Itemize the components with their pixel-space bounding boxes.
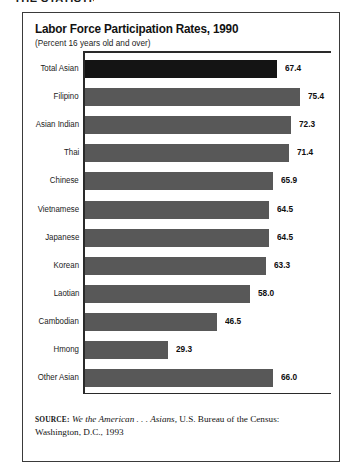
bar-category-label: Vietnamese bbox=[38, 204, 79, 214]
bar bbox=[85, 60, 278, 78]
bar-category-label: Thai bbox=[64, 147, 79, 157]
bar bbox=[85, 369, 274, 387]
bar bbox=[85, 341, 169, 359]
chart-subtitle: (Percent 16 years old and over) bbox=[35, 38, 151, 48]
bar bbox=[85, 116, 292, 134]
figure-page: THE STATISTIC Labor Force Participation … bbox=[0, 0, 359, 476]
bar-value-label: 71.4 bbox=[297, 147, 313, 157]
bar-row: Chinese65.9 bbox=[83, 172, 331, 190]
bar-category-label: Hmong bbox=[54, 344, 79, 354]
bar-chart-plot: Total Asian67.4Filipino75.4Asian Indian7… bbox=[83, 51, 331, 394]
bar-row: Hmong29.3 bbox=[83, 341, 331, 359]
bar-row: Korean63.3 bbox=[83, 257, 331, 275]
bar-row: Filipino75.4 bbox=[83, 88, 331, 106]
bar-row: Thai71.4 bbox=[83, 144, 331, 162]
bar bbox=[85, 313, 218, 331]
cut-off-header-text: THE STATISTIC bbox=[14, 0, 94, 4]
bar-row: Other Asian66.0 bbox=[83, 369, 331, 387]
bar bbox=[85, 285, 251, 303]
source-label: SOURCE: bbox=[35, 415, 70, 424]
bar-category-label: Korean bbox=[54, 260, 79, 270]
bar-value-label: 64.5 bbox=[277, 204, 293, 214]
source-title: We the American . . . Asians, bbox=[72, 414, 177, 424]
bar-value-label: 75.4 bbox=[308, 91, 324, 101]
bar-value-label: 67.4 bbox=[285, 63, 301, 73]
figure-frame: Labor Force Participation Rates, 1990 (P… bbox=[22, 12, 340, 462]
bar-category-label: Asian Indian bbox=[36, 119, 79, 129]
bar bbox=[85, 229, 269, 247]
bar-row: Laotian58.0 bbox=[83, 285, 331, 303]
bar-category-label: Laotian bbox=[53, 288, 79, 298]
bar-category-label: Chinese bbox=[50, 175, 79, 185]
source-note: SOURCE: We the American . . . Asians, U.… bbox=[35, 413, 327, 439]
bar-value-label: 29.3 bbox=[176, 344, 192, 354]
bar bbox=[85, 172, 273, 190]
bar-row: Japanese64.5 bbox=[83, 229, 331, 247]
bar bbox=[85, 144, 289, 162]
bar-category-label: Total Asian bbox=[41, 63, 79, 73]
bar bbox=[85, 257, 266, 275]
bar-value-label: 65.9 bbox=[281, 175, 297, 185]
bar-rows: Total Asian67.4Filipino75.4Asian Indian7… bbox=[83, 51, 331, 394]
bar-value-label: 66.0 bbox=[281, 372, 297, 382]
bar-category-label: Other Asian bbox=[38, 372, 79, 382]
bar-category-label: Japanese bbox=[45, 232, 79, 242]
bar-category-label: Cambodian bbox=[39, 316, 79, 326]
bar-value-label: 72.3 bbox=[299, 119, 315, 129]
bar-value-label: 46.5 bbox=[225, 316, 241, 326]
bar bbox=[85, 201, 269, 219]
bar-row: Vietnamese64.5 bbox=[83, 201, 331, 219]
bar-row: Cambodian46.5 bbox=[83, 313, 331, 331]
bar bbox=[85, 88, 301, 106]
chart-title: Labor Force Participation Rates, 1990 bbox=[35, 22, 238, 36]
bar-category-label: Filipino bbox=[54, 91, 79, 101]
cut-off-page-header: THE STATISTIC bbox=[14, 0, 94, 4]
bar-value-label: 63.3 bbox=[274, 260, 290, 270]
bar-row: Total Asian67.4 bbox=[83, 60, 331, 78]
bar-row: Asian Indian72.3 bbox=[83, 116, 331, 134]
bar-value-label: 64.5 bbox=[277, 232, 293, 242]
bar-value-label: 58.0 bbox=[258, 288, 274, 298]
